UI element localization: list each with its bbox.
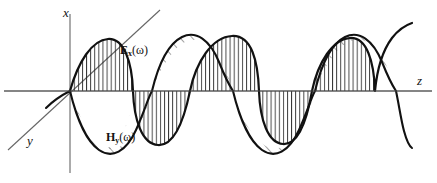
h-field-label-arg: (ω)	[119, 130, 135, 144]
e-field-label: Ex(ω)	[120, 44, 148, 58]
h-field-label-main: H	[106, 130, 115, 144]
e-field-label-arg: (ω)	[132, 43, 148, 57]
axis-label-z: z	[417, 74, 422, 87]
axis-label-x: x	[63, 6, 69, 19]
e-field-label-main: E	[120, 43, 128, 57]
axis-label-y: y	[27, 134, 33, 147]
em-wave-figure	[0, 0, 437, 183]
h-field-label: Hy(ω)	[106, 131, 135, 145]
